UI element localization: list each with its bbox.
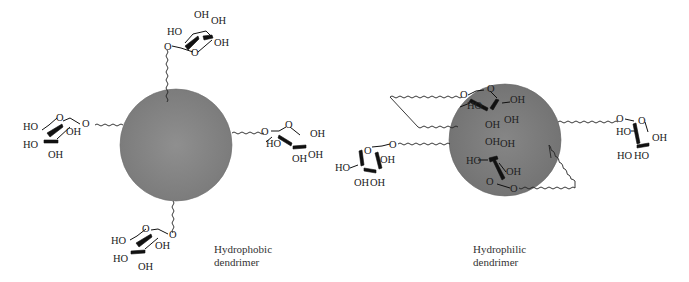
svg-text:O: O xyxy=(164,41,172,52)
linker-left-lower xyxy=(398,143,450,145)
svg-text:HO: HO xyxy=(335,162,351,173)
svg-text:OH: OH xyxy=(48,149,64,160)
svg-text:O: O xyxy=(169,229,177,240)
svg-text:OH: OH xyxy=(211,15,227,26)
svg-text:HO: HO xyxy=(467,100,483,111)
sugar-unit-top: O O HO OH OH OH xyxy=(164,9,230,58)
svg-text:HO: HO xyxy=(167,26,183,37)
dendrimer-diagram: O O HO OH OH OH O O HO OH HO OH O O OH xyxy=(0,0,689,282)
svg-text:O: O xyxy=(261,126,269,137)
svg-text:O: O xyxy=(285,119,293,130)
hydrophobic-dendrimer: O O HO OH OH OH O O HO OH HO OH O O OH xyxy=(23,9,326,272)
svg-text:O: O xyxy=(364,145,372,156)
linker-right xyxy=(232,132,264,134)
svg-text:O: O xyxy=(142,223,150,234)
hydrophilic-caption-line2: dendrimer xyxy=(473,256,519,268)
sugar-unit-bottom: O O HO OH HO OH xyxy=(111,223,177,272)
hydrophilic-dendrimer: O O HO OH OH OH OH OH HO OH O O O O xyxy=(335,83,668,268)
sugar-unit-right: O O OH HO OH OH xyxy=(261,119,326,164)
svg-text:OH: OH xyxy=(510,94,526,105)
svg-text:HO: HO xyxy=(466,155,482,166)
svg-text:HO: HO xyxy=(266,138,282,149)
svg-text:OH: OH xyxy=(310,128,326,139)
svg-text:OH: OH xyxy=(66,126,82,137)
svg-text:OH: OH xyxy=(138,261,154,272)
svg-text:OH: OH xyxy=(485,136,501,147)
svg-text:HO: HO xyxy=(616,126,632,137)
svg-text:O: O xyxy=(487,83,495,94)
svg-text:OH: OH xyxy=(652,132,668,143)
svg-text:O: O xyxy=(510,183,518,194)
svg-text:OH: OH xyxy=(506,166,522,177)
svg-text:OH: OH xyxy=(194,9,210,20)
svg-text:HO: HO xyxy=(111,235,127,246)
svg-text:HO: HO xyxy=(617,150,633,161)
svg-text:OH: OH xyxy=(354,177,370,188)
hydrophobic-caption-line2: dendrimer xyxy=(214,256,260,268)
svg-text:O: O xyxy=(460,89,468,100)
svg-text:O: O xyxy=(191,47,199,58)
hydrophilic-caption-line1: Hydrophilic xyxy=(473,243,526,255)
svg-text:OH: OH xyxy=(308,149,324,160)
svg-text:O: O xyxy=(56,112,64,123)
svg-text:HO: HO xyxy=(113,253,129,264)
svg-text:OH: OH xyxy=(370,177,386,188)
svg-text:O: O xyxy=(616,113,624,124)
sugar-unit-left: O O HO OH HO OH xyxy=(23,112,90,160)
hydrophobic-core-sphere xyxy=(120,89,232,201)
sugar-unit-left: O O OH HO OH OH xyxy=(335,139,397,188)
hydrophobic-caption-line1: Hydrophobic xyxy=(214,243,272,255)
linker-looped-upper xyxy=(390,96,462,128)
svg-text:O: O xyxy=(82,118,90,129)
svg-text:O: O xyxy=(638,115,646,126)
svg-text:O: O xyxy=(486,176,494,187)
svg-text:O: O xyxy=(389,139,397,150)
svg-text:OH: OH xyxy=(500,138,516,149)
svg-text:OH: OH xyxy=(380,154,396,165)
linker-right xyxy=(558,121,618,123)
svg-text:OH: OH xyxy=(504,114,520,125)
linker-left xyxy=(95,124,123,126)
sugar-unit-right: O O HO OH HO HO xyxy=(616,113,668,161)
svg-text:HO: HO xyxy=(23,121,39,132)
svg-text:HO: HO xyxy=(23,139,39,150)
svg-text:OH: OH xyxy=(214,37,230,48)
svg-text:OH: OH xyxy=(155,240,171,251)
svg-text:HO: HO xyxy=(634,150,650,161)
svg-text:OH: OH xyxy=(292,153,308,164)
svg-text:OH: OH xyxy=(485,119,501,130)
